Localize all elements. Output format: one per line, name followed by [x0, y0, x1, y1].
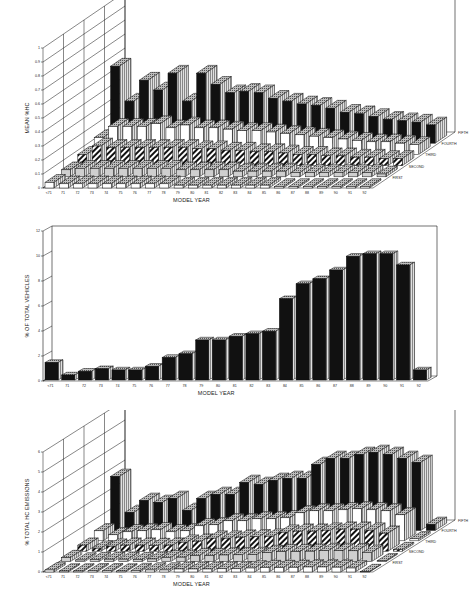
svg-text:80: 80: [190, 575, 194, 579]
svg-text:88: 88: [305, 575, 309, 579]
chart-mean-hc: 00.10.20.30.40.50.60.70.80.91FIFTHFOURTH…: [0, 0, 471, 210]
svg-text:0.3: 0.3: [35, 144, 40, 148]
svg-text:86: 86: [276, 575, 280, 579]
svg-text:10: 10: [36, 254, 40, 258]
svg-text:THIRD: THIRD: [425, 540, 436, 544]
svg-text:81: 81: [233, 384, 237, 388]
svg-text:86: 86: [276, 191, 280, 195]
svg-text:% TOTAL HC EMISSIONS: % TOTAL HC EMISSIONS: [24, 478, 30, 545]
svg-text:88: 88: [350, 384, 354, 388]
svg-text:6: 6: [38, 450, 40, 454]
svg-text:% OF TOTAL VEHICLES: % OF TOTAL VEHICLES: [24, 274, 30, 337]
svg-text:FIFTH: FIFTH: [458, 519, 469, 523]
svg-text:0.7: 0.7: [35, 88, 40, 92]
svg-text:76: 76: [133, 191, 137, 195]
svg-text:0.1: 0.1: [35, 172, 40, 176]
chart-pct-hc-emissions-svg: 0123456FIFTHFOURTHTHIRDSECONDFIRST<71717…: [0, 410, 471, 599]
svg-text:78: 78: [162, 191, 166, 195]
svg-text:5: 5: [38, 470, 40, 474]
svg-text:75: 75: [132, 384, 136, 388]
svg-text:79: 79: [176, 575, 180, 579]
svg-text:0: 0: [38, 186, 40, 190]
chart-pct-hc-emissions: 0123456FIFTHFOURTHTHIRDSECONDFIRST<71717…: [0, 410, 471, 599]
svg-text:4: 4: [38, 490, 40, 494]
svg-text:87: 87: [291, 575, 295, 579]
svg-text:74: 74: [104, 191, 108, 195]
svg-text:86: 86: [316, 384, 320, 388]
svg-text:FIFTH: FIFTH: [458, 131, 469, 135]
svg-text:0.2: 0.2: [35, 158, 40, 162]
svg-text:FIRST: FIRST: [392, 176, 403, 180]
svg-text:91: 91: [348, 575, 352, 579]
svg-text:73: 73: [99, 384, 103, 388]
svg-text:90: 90: [334, 191, 338, 195]
svg-text:83: 83: [233, 191, 237, 195]
svg-text:78: 78: [162, 575, 166, 579]
svg-text:91: 91: [400, 384, 404, 388]
svg-text:0.6: 0.6: [35, 102, 40, 106]
svg-text:73: 73: [90, 191, 94, 195]
svg-text:85: 85: [262, 575, 266, 579]
svg-text:81: 81: [205, 575, 209, 579]
svg-text:0: 0: [38, 570, 40, 574]
svg-text:77: 77: [166, 384, 170, 388]
svg-text:79: 79: [199, 384, 203, 388]
svg-text:<71: <71: [46, 191, 52, 195]
svg-text:1: 1: [38, 46, 40, 50]
svg-text:79: 79: [176, 191, 180, 195]
svg-text:89: 89: [319, 575, 323, 579]
svg-text:SECOND: SECOND: [409, 165, 425, 169]
svg-text:SECOND: SECOND: [409, 550, 425, 554]
svg-text:<71: <71: [47, 384, 53, 388]
chart-pct-vehicles-svg: 024681012<717172737475767778798081828384…: [0, 210, 471, 410]
svg-text:81: 81: [205, 191, 209, 195]
svg-text:82: 82: [219, 191, 223, 195]
svg-text:87: 87: [333, 384, 337, 388]
svg-text:80: 80: [190, 191, 194, 195]
svg-text:88: 88: [305, 191, 309, 195]
svg-text:83: 83: [266, 384, 270, 388]
svg-text:1: 1: [38, 550, 40, 554]
svg-text:76: 76: [149, 384, 153, 388]
svg-text:71: 71: [65, 384, 69, 388]
svg-text:75: 75: [118, 191, 122, 195]
svg-text:2: 2: [38, 530, 40, 534]
svg-text:0.5: 0.5: [35, 116, 40, 120]
svg-text:0.8: 0.8: [35, 74, 40, 78]
svg-text:89: 89: [319, 191, 323, 195]
svg-text:72: 72: [75, 191, 79, 195]
svg-text:84: 84: [283, 384, 287, 388]
svg-text:MEAN %HC: MEAN %HC: [24, 102, 30, 133]
svg-text:76: 76: [133, 575, 137, 579]
svg-text:THIRD: THIRD: [425, 153, 436, 157]
svg-text:85: 85: [262, 191, 266, 195]
svg-text:6: 6: [38, 304, 40, 308]
svg-text:71: 71: [61, 191, 65, 195]
svg-text:0: 0: [38, 379, 40, 383]
svg-text:82: 82: [249, 384, 253, 388]
svg-text:90: 90: [383, 384, 387, 388]
svg-text:74: 74: [104, 575, 108, 579]
svg-text:92: 92: [362, 575, 366, 579]
svg-text:83: 83: [233, 575, 237, 579]
svg-text:3: 3: [38, 510, 40, 514]
svg-text:MODEL YEAR: MODEL YEAR: [198, 390, 235, 396]
svg-text:82: 82: [219, 575, 223, 579]
svg-text:12: 12: [36, 229, 40, 233]
chart-pct-vehicles: 024681012<717172737475767778798081828384…: [0, 210, 471, 410]
svg-text:89: 89: [367, 384, 371, 388]
svg-text:87: 87: [291, 191, 295, 195]
svg-text:84: 84: [248, 191, 252, 195]
svg-text:FOURTH: FOURTH: [442, 529, 457, 533]
svg-text:2: 2: [38, 354, 40, 358]
svg-text:FOURTH: FOURTH: [442, 142, 457, 146]
svg-text:73: 73: [90, 575, 94, 579]
svg-text:92: 92: [362, 191, 366, 195]
svg-text:74: 74: [115, 384, 119, 388]
svg-text:84: 84: [248, 575, 252, 579]
svg-text:4: 4: [38, 329, 40, 333]
svg-text:<71: <71: [46, 575, 52, 579]
svg-text:0.9: 0.9: [35, 60, 40, 64]
svg-text:0.4: 0.4: [35, 130, 40, 134]
svg-text:91: 91: [348, 191, 352, 195]
